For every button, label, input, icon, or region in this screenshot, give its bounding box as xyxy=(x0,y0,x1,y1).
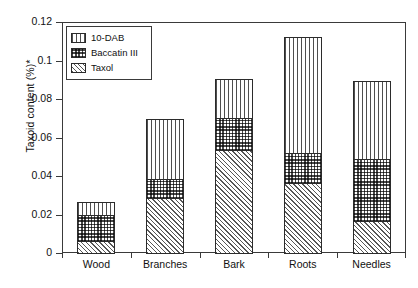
bar-segment-baccatin-iii xyxy=(353,159,391,223)
legend-item-10-dab: 10-DAB xyxy=(71,31,147,45)
bar-segment-taxol xyxy=(77,241,115,254)
y-tick-label: 0.12 xyxy=(0,15,52,27)
bar-wood xyxy=(77,202,115,253)
chart-legend: 10-DAB Baccatin III Taxol xyxy=(66,26,152,80)
bar-segment-taxol xyxy=(146,198,184,254)
x-tick-label-wood: Wood xyxy=(83,258,110,270)
bar-segment-10-dab xyxy=(215,79,253,119)
legend-label-10-dab: 10-DAB xyxy=(91,33,124,43)
bar-segment-baccatin-iii xyxy=(215,118,253,151)
y-tick-label: 0.02 xyxy=(0,208,52,220)
x-tick-label-branches: Branches xyxy=(143,258,187,270)
bar-segment-baccatin-iii xyxy=(146,179,184,199)
y-tick-label: 0 xyxy=(0,246,52,258)
bar-branches xyxy=(146,119,184,253)
legend-item-baccatin-iii: Baccatin III xyxy=(71,46,147,60)
y-tick-label: 0.06 xyxy=(0,131,52,143)
bar-segment-10-dab xyxy=(284,37,322,154)
legend-swatch-10-dab-icon xyxy=(71,33,86,43)
legend-label-baccatin-iii: Baccatin III xyxy=(91,48,138,58)
x-tick-label-needles: Needles xyxy=(352,258,391,270)
bar-roots xyxy=(284,37,322,253)
y-tick-label: 0.04 xyxy=(0,169,52,181)
bar-segment-10-dab xyxy=(77,202,115,215)
bar-segment-10-dab xyxy=(353,81,391,160)
bar-segment-taxol xyxy=(215,150,253,254)
y-tick-label: 0.08 xyxy=(0,92,52,104)
x-tick-label-roots: Roots xyxy=(289,258,316,270)
bar-segment-taxol xyxy=(353,221,391,254)
x-axis-labels: WoodBranchesBarkRootsNeedles xyxy=(62,258,406,280)
bar-segment-taxol xyxy=(284,183,322,254)
x-tick-label-bark: Bark xyxy=(223,258,245,270)
legend-item-taxol: Taxol xyxy=(71,61,147,75)
bar-segment-baccatin-iii xyxy=(77,215,115,242)
legend-swatch-taxol-icon xyxy=(71,63,86,73)
y-tick-label: 0.1 xyxy=(0,54,52,66)
legend-label-taxol: Taxol xyxy=(91,63,113,73)
bar-needles xyxy=(353,81,391,253)
y-axis-ticks: 00.020.040.060.080.10.12 xyxy=(0,0,62,288)
bar-bark xyxy=(215,79,253,253)
legend-swatch-baccatin-iii-icon xyxy=(71,48,86,58)
chart-figure: Taxoid content (%)* 00.020.040.060.080.1… xyxy=(0,0,418,288)
bar-segment-10-dab xyxy=(146,119,184,180)
bar-segment-baccatin-iii xyxy=(284,153,322,184)
